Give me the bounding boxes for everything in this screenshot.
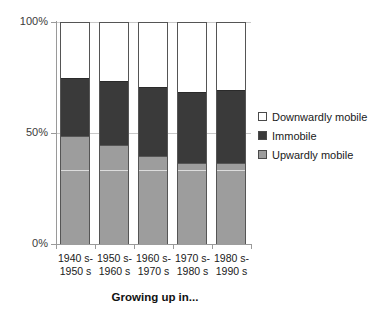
bar-1970s-1980s[interactable] [177,22,207,244]
segment-upwardly-mobile [217,163,245,245]
y-tick-label-100-text: 100% [2,16,48,27]
legend-swatch-icon-immobile [258,131,267,140]
stacked-bar-chart: 100% 50% 0% [0,0,385,317]
x-axis-title: Growing up in... [30,291,280,303]
x-category-label-line2: 1990 s [212,265,251,278]
x-category-label-line2: 1950 s [56,265,95,278]
legend-label-upwardly-mobile: Upwardly mobile [272,149,353,161]
gridline-overlay [178,170,206,171]
gridline-overlay [139,170,167,171]
x-category-label-line2: 1980 s [173,265,212,278]
legend-swatch-icon-upwardly-mobile [258,150,267,159]
segment-upwardly-mobile [178,163,206,245]
x-tick-mark-3 [173,244,174,249]
segment-immobile [100,81,128,145]
x-category-label-line1: 1950 s- [97,252,132,264]
segment-upwardly-mobile [100,145,128,245]
plot-area [57,22,251,244]
gridline-overlay [61,170,89,171]
bar-group-1970s-1980s[interactable] [177,22,207,244]
x-category-label-line1: 1970 s- [175,252,210,264]
bar-group-1940s-1950s[interactable] [60,22,90,244]
bar-1960s-1970s[interactable] [138,22,168,244]
gridline-overlay [217,170,245,171]
segment-downwardly-mobile [178,23,206,92]
y-tick-label-50-text: 50% [2,127,48,138]
bar-group-1960s-1970s[interactable] [138,22,168,244]
bar-group-1950s-1960s[interactable] [99,22,129,244]
x-category-label-line1: 1940 s- [58,252,93,264]
legend-swatch-icon-downwardly-mobile [258,112,267,121]
bar-1950s-1960s[interactable] [99,22,129,244]
segment-downwardly-mobile [61,23,89,78]
bar-1980s-1990s[interactable] [216,22,246,244]
segment-downwardly-mobile [217,23,245,90]
segment-immobile [217,90,245,163]
segment-downwardly-mobile [139,23,167,87]
gridline-overlay [100,170,128,171]
x-category-label-1960s-1970s: 1960 s- 1970 s [134,252,173,278]
segment-immobile [139,87,167,156]
x-category-label-line1: 1960 s- [136,252,171,264]
x-tick-mark-1 [95,244,96,249]
legend-item-upwardly-mobile[interactable]: Upwardly mobile [258,146,367,163]
x-category-label-1950s-1960s: 1950 s- 1960 s [95,252,134,278]
x-category-label-1970s-1980s: 1970 s- 1980 s [173,252,212,278]
y-tick-label-0-text: 0% [2,238,48,249]
bar-group-1980s-1990s[interactable] [216,22,246,244]
segment-downwardly-mobile [100,23,128,81]
segment-upwardly-mobile [61,136,89,245]
segment-immobile [61,78,89,136]
x-category-label-line2: 1960 s [95,265,134,278]
x-tick-mark-0 [56,244,57,249]
bar-1940s-1950s[interactable] [60,22,90,244]
x-category-label-line2: 1970 s [134,265,173,278]
chart-legend: Downwardly mobile Immobile Upwardly mobi… [258,108,367,165]
legend-item-downwardly-mobile[interactable]: Downwardly mobile [258,108,367,125]
x-category-label-1940s-1950s: 1940 s- 1950 s [56,252,95,278]
legend-label-downwardly-mobile: Downwardly mobile [272,111,367,123]
x-tick-mark-2 [134,244,135,249]
x-tick-mark-4 [212,244,213,249]
legend-item-immobile[interactable]: Immobile [258,127,367,144]
x-tick-mark-5 [251,244,252,249]
x-category-label-line1: 1980 s- [214,252,249,264]
segment-upwardly-mobile [139,156,167,245]
x-category-label-1980s-1990s: 1980 s- 1990 s [212,252,251,278]
legend-label-immobile: Immobile [272,130,317,142]
segment-immobile [178,92,206,163]
